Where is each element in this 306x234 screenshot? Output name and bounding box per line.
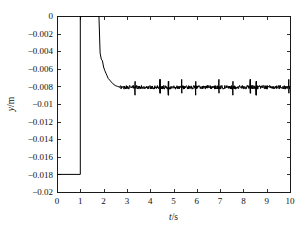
y-tick-label: −0.02 xyxy=(32,187,53,197)
chart-plot: 012345678910 0−0.002−0.004−0.006−0.008−0… xyxy=(0,0,306,234)
y-tick-label: −0.002 xyxy=(28,29,53,39)
x-tick-label: 5 xyxy=(171,196,176,206)
y-tick-label: −0.006 xyxy=(28,64,54,74)
x-tick-label: 4 xyxy=(148,196,153,206)
x-tick-label: 8 xyxy=(241,196,246,206)
x-tick-label: 2 xyxy=(101,196,106,206)
y-axis-title: y/m xyxy=(6,96,16,112)
y-tick-label: −0.008 xyxy=(28,82,54,92)
y-tick-label: 0 xyxy=(49,11,54,21)
y-tick-label: −0.004 xyxy=(28,46,54,56)
y-tick-label: −0.018 xyxy=(28,170,54,180)
y-tick-label: −0.014 xyxy=(28,134,54,144)
x-tick-label: 6 xyxy=(195,196,200,206)
x-tick-label: 10 xyxy=(286,196,296,206)
y-tick-label: −0.012 xyxy=(28,117,53,127)
x-tick-label: 7 xyxy=(218,196,223,206)
x-tick-label: 3 xyxy=(125,196,130,206)
x-tick-label: 9 xyxy=(264,196,269,206)
x-tick-label: 1 xyxy=(78,196,83,206)
y-tick-label: −0.01 xyxy=(32,99,53,109)
x-axis-title: t/s xyxy=(169,212,178,222)
y-tick-label: −0.016 xyxy=(28,152,54,162)
x-tick-label: 0 xyxy=(55,196,60,206)
x-axis-title-text: t/s xyxy=(169,212,178,222)
y-axis-title-text: y/m xyxy=(6,96,16,112)
chart-figure: 012345678910 0−0.002−0.004−0.006−0.008−0… xyxy=(0,0,306,234)
